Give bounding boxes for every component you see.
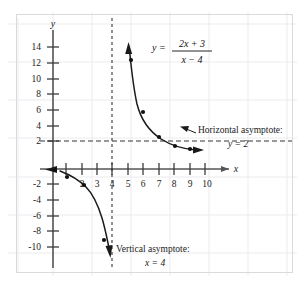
x-tick-label: 3	[95, 179, 100, 189]
vertical-asymptote-equation: x = 4	[144, 258, 165, 268]
y-tick-label: 10	[32, 74, 42, 84]
y-tick-label: -6	[33, 211, 41, 221]
horizontal-asymptote-text: Horizontal asymptote:	[198, 125, 283, 135]
right-branch-points	[129, 58, 192, 151]
data-point	[157, 135, 161, 139]
y-tick-label: 14	[32, 42, 42, 52]
data-point	[53, 168, 57, 172]
data-point	[129, 58, 133, 62]
x-tick-label: 10	[202, 179, 212, 189]
rational-function-graph-figure: 14 12 10 8 6 4 2 -2 -4 -6 -8 -10 2 3 4 5…	[0, 0, 303, 282]
function-equation-label: y = 2x + 3 x − 4	[151, 38, 212, 65]
graph-canvas: 14 12 10 8 6 4 2 -2 -4 -6 -8 -10 2 3 4 5…	[0, 0, 303, 282]
y-tick-label: -2	[33, 179, 41, 189]
x-axis-arrowhead	[221, 166, 229, 172]
data-point	[188, 147, 192, 151]
x-tick-label: 8	[172, 179, 177, 189]
x-tick-label: 5	[126, 179, 131, 189]
equation-denominator: x − 4	[180, 54, 202, 65]
horizontal-asymptote-annotation: Horizontal asymptote: y = 2	[180, 125, 283, 149]
x-tick-labels: 2 3 4 5 6 7 8 9 10	[80, 179, 212, 189]
figure-border	[17, 15, 293, 273]
vertical-asymptote-text: Vertical asymptote:	[116, 244, 190, 254]
x-tick-label: 7	[157, 179, 162, 189]
y-tick-label: 6	[36, 105, 41, 115]
y-tick-label: 8	[36, 89, 41, 99]
right-branch-right-arrowhead	[193, 147, 204, 154]
y-tick-label: 12	[32, 58, 42, 68]
y-axis-label: y	[50, 18, 56, 29]
equation-numerator: 2x + 3	[179, 38, 205, 49]
horizontal-asymptote-equation: y = 2	[227, 139, 248, 149]
data-point	[102, 238, 106, 242]
data-point	[82, 183, 86, 187]
data-point	[141, 110, 145, 114]
left-branch-down-arrowhead	[106, 245, 113, 258]
x-tick-label: 9	[188, 179, 193, 189]
horizontal-asymptote-leader-arrowhead	[180, 126, 189, 132]
x-tick-label: 6	[141, 179, 146, 189]
y-tick-label: -10	[28, 242, 41, 252]
y-tick-label: -8	[33, 226, 41, 236]
vertical-asymptote-annotation: Vertical asymptote: x = 4	[116, 244, 190, 268]
equation-lhs: y =	[151, 42, 166, 53]
x-axis-label: x	[233, 163, 239, 174]
y-tick-label: 4	[36, 121, 41, 131]
y-tick-label: -4	[33, 195, 41, 205]
data-point	[65, 175, 69, 179]
data-point	[173, 144, 177, 148]
y-tick-labels: 14 12 10 8 6 4 2 -2 -4 -6 -8 -10	[28, 42, 41, 252]
